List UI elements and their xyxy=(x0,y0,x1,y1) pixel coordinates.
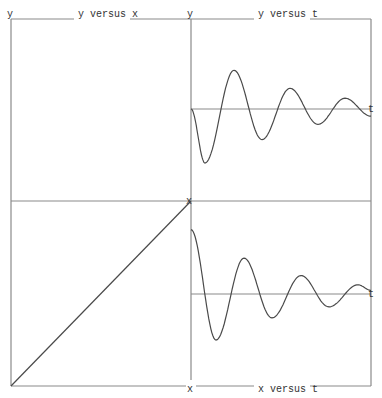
t-axis-label-bottom: t xyxy=(368,289,374,300)
phase-plot-figure: y y y versus x y versus t t t x x x vers… xyxy=(0,0,382,398)
y-vs-t-curve xyxy=(191,70,371,163)
x-axis-label-mid: x xyxy=(186,196,192,207)
t-axis-label-top: t xyxy=(368,104,374,115)
x-axis-label-bottom: x xyxy=(187,384,193,395)
y-axis-label-mid: y xyxy=(187,9,193,20)
x-vs-t-curve xyxy=(191,230,371,340)
chart-title-x-vs-t: x versus t xyxy=(258,384,318,395)
chart-title-y-vs-t: y versus t xyxy=(258,9,318,20)
chart-title-y-vs-x: y versus x xyxy=(78,9,138,20)
y-vs-x-line xyxy=(11,201,191,386)
y-axis-label-left: y xyxy=(7,9,13,20)
